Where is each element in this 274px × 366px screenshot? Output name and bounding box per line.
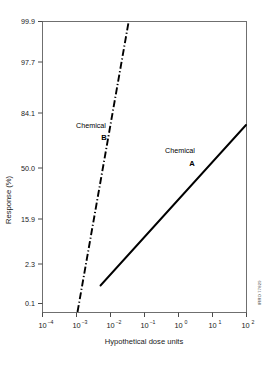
- figure-corner-code: IRRO 77829: [257, 280, 262, 305]
- x-tick-base: 10: [72, 321, 80, 330]
- chemical-a-label: Chemical: [165, 146, 195, 155]
- x-axis: 10 −4 10 −3 10 −2 10 −1 10 0 10 1: [38, 313, 254, 331]
- x-tick-label-1e-2: 10 −2: [106, 319, 121, 330]
- x-tick-exponent: 1: [219, 319, 222, 325]
- x-tick-base: 10: [174, 321, 182, 330]
- x-tick-exponent: 0: [185, 319, 188, 325]
- x-tick-label-1e0: 10 0: [174, 319, 187, 330]
- x-tick-base: 10: [106, 321, 114, 330]
- x-tick-exponent: 2: [252, 319, 255, 325]
- y-tick-label-84-1: 84.1: [21, 109, 35, 118]
- chemical-b-letter: B: [101, 133, 107, 142]
- x-axis-title: Hypothetical dose units: [105, 337, 184, 346]
- y-tick-label-0-1: 0.1: [25, 299, 35, 308]
- x-tick-base: 10: [208, 321, 216, 330]
- y-tick-label-50-0: 50.0: [21, 164, 35, 173]
- x-tick-base: 10: [241, 321, 249, 330]
- y-axis-title: Response (%): [4, 175, 13, 224]
- y-tick-label-2-3: 2.3: [25, 260, 35, 269]
- series-line-chemical-b: [78, 23, 129, 313]
- x-tick-exponent: −4: [48, 319, 54, 325]
- chemical-a-letter: A: [189, 159, 195, 168]
- x-tick-exponent: −1: [150, 319, 156, 325]
- figure-container: 99.9 97.7 84.1 50.0 15.9 2.3 0.1 Respons…: [0, 0, 274, 366]
- x-tick-label-1e-3: 10 −3: [72, 319, 87, 330]
- y-tick-label-97-7: 97.7: [21, 58, 35, 67]
- chemical-b-callout: Chemical B: [76, 121, 107, 142]
- x-tick-base: 10: [140, 321, 148, 330]
- x-tick-label-1e2: 10 2: [241, 319, 254, 330]
- x-tick-label-1e1: 10 1: [208, 319, 221, 330]
- x-tick-exponent: −3: [82, 319, 88, 325]
- plot-frame: [43, 22, 247, 313]
- x-tick-exponent: −2: [116, 319, 122, 325]
- y-axis: 99.9 97.7 84.1 50.0 15.9 2.3 0.1: [21, 17, 43, 308]
- x-tick-base: 10: [38, 321, 46, 330]
- x-tick-label-1e-4: 10 −4: [38, 319, 53, 330]
- x-tick-label-1e-1: 10 −1: [140, 319, 155, 330]
- y-tick-label-15-9: 15.9: [21, 215, 35, 224]
- chemical-b-label: Chemical: [76, 121, 106, 130]
- y-tick-label-99-9: 99.9: [21, 17, 35, 26]
- probit-dose-response-chart: 99.9 97.7 84.1 50.0 15.9 2.3 0.1 Respons…: [0, 0, 274, 366]
- chemical-a-callout: Chemical A: [165, 146, 195, 168]
